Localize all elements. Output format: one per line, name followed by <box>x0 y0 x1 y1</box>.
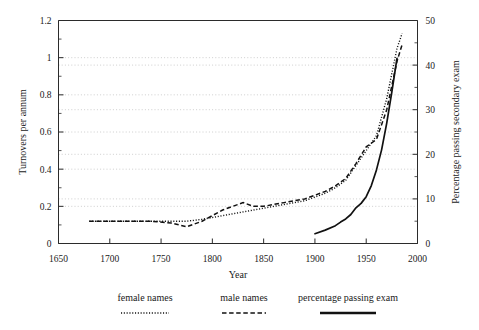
y-tick-label-right: 20 <box>426 150 436 160</box>
y-tick-label-left: 0 <box>47 239 52 249</box>
series-male-names <box>89 45 402 227</box>
x-tick-label: 1650 <box>49 254 68 264</box>
x-tick-label: 1750 <box>152 254 171 264</box>
x-tick-label: 1800 <box>203 254 222 264</box>
x-tick-label: 1900 <box>305 254 324 264</box>
y-tick-label-right: 0 <box>426 239 431 249</box>
legend-label-male-names: male names <box>220 292 268 303</box>
grid-lines <box>59 58 418 207</box>
x-tick-label: 2000 <box>408 254 427 264</box>
line-chart: 1650170017501800185019001950200000.20.40… <box>0 0 479 330</box>
legend-label-percentage-passing-exam: percentage passing exam <box>298 292 398 303</box>
x-tick-label: 1950 <box>357 254 376 264</box>
y-tick-label-right: 10 <box>426 194 436 204</box>
y-tick-label-left: 1.2 <box>40 16 52 26</box>
y-tick-label-left: 1 <box>47 53 52 63</box>
series-female-names <box>89 34 402 222</box>
y-axis-title-right: Percentage passing secondary exam <box>450 60 461 204</box>
y-tick-label-right: 30 <box>426 105 436 115</box>
tick-labels: 1650170017501800185019001950200000.20.40… <box>40 16 436 264</box>
chart-legend: female namesmale namespercentage passing… <box>117 292 398 313</box>
x-tick-label: 1700 <box>100 254 119 264</box>
y-tick-label-left: 0.4 <box>40 165 52 175</box>
series-percentage-passing-exam <box>315 58 397 233</box>
chart-figure: 1650170017501800185019001950200000.20.40… <box>0 0 479 330</box>
y-tick-label-right: 40 <box>426 61 436 71</box>
x-axis-title: Year <box>229 269 248 280</box>
y-tick-label-right: 50 <box>426 16 436 26</box>
y-tick-label-left: 0.8 <box>40 90 52 100</box>
y-tick-label-left: 0.2 <box>40 202 52 212</box>
legend-label-female-names: female names <box>117 292 172 303</box>
y-tick-label-left: 0.6 <box>40 127 52 137</box>
data-series <box>89 34 402 234</box>
axis-titles: YearTurnovers per annumPercentage passin… <box>17 60 462 279</box>
y-axis-title-left: Turnovers per annum <box>17 89 28 175</box>
x-tick-label: 1850 <box>254 254 273 264</box>
